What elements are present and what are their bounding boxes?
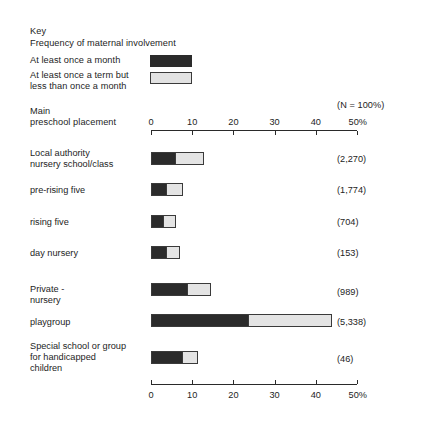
key-title: Key bbox=[30, 26, 46, 37]
bar-segment-at-least-once-a-month bbox=[152, 284, 187, 295]
key-subtitle: Frequency of maternal involvement bbox=[30, 38, 176, 49]
axis-tick-top bbox=[233, 131, 234, 135]
key-swatch-at-least-once-a-term bbox=[150, 72, 192, 84]
axis-tick-bottom bbox=[151, 380, 152, 384]
axis-tick-label-bottom: 40 bbox=[311, 390, 321, 400]
bar-segment-at-least-once-a-month bbox=[152, 247, 166, 258]
axis-tick-top bbox=[192, 131, 193, 135]
row-label: rising five bbox=[30, 217, 69, 228]
axis-tick-label-bottom: 10 bbox=[187, 390, 197, 400]
stacked-bar bbox=[151, 183, 183, 196]
row-n-value: (153) bbox=[337, 248, 358, 259]
axis-tick-label-bottom: 30 bbox=[269, 390, 279, 400]
stacked-bar bbox=[151, 215, 176, 228]
axis-tick-label-bottom: 0 bbox=[148, 390, 153, 400]
key-swatch-at-least-once-a-month bbox=[150, 55, 192, 67]
axis-tick-bottom bbox=[316, 380, 317, 384]
axis-tick-bottom bbox=[192, 380, 193, 384]
bar-segment-at-least-once-a-month bbox=[152, 315, 248, 326]
axis-tick-top bbox=[151, 131, 152, 135]
bar-segment-at-least-once-a-month bbox=[152, 153, 175, 164]
bar-segment-at-least-once-a-month bbox=[152, 216, 163, 227]
row-label: day nursery bbox=[30, 248, 78, 259]
row-label: Local authority nursery school/class bbox=[30, 148, 113, 170]
row-label: Special school or group for handicapped … bbox=[30, 341, 126, 375]
axis-tick-label-top: 50% bbox=[349, 117, 367, 127]
axis-tick-bottom bbox=[233, 380, 234, 384]
axis-tick-label-top: 0 bbox=[148, 117, 153, 127]
axis-tick-label-top: 30 bbox=[269, 117, 279, 127]
axis-top bbox=[151, 130, 357, 131]
bar-segment-at-least-once-a-term bbox=[248, 315, 331, 326]
row-n-value: (989) bbox=[337, 287, 358, 298]
row-label: pre-rising five bbox=[30, 185, 85, 196]
stacked-bar bbox=[151, 351, 198, 364]
key-legend-label-at-least-once-a-term: At least once a term but less than once … bbox=[30, 70, 129, 93]
row-label: Private - nursery bbox=[30, 284, 64, 306]
row-n-value: (2,270) bbox=[337, 154, 366, 165]
row-n-value: (704) bbox=[337, 217, 358, 228]
bar-segment-at-least-once-a-term bbox=[187, 284, 210, 295]
bar-segment-at-least-once-a-term bbox=[166, 184, 183, 195]
axis-tick-label-top: 40 bbox=[311, 117, 321, 127]
stacked-bar bbox=[151, 246, 180, 259]
row-n-value: (1,774) bbox=[337, 185, 366, 196]
stacked-bar bbox=[151, 283, 211, 296]
bar-segment-at-least-once-a-month bbox=[152, 184, 166, 195]
stacked-bar bbox=[151, 152, 204, 165]
bar-segment-at-least-once-a-term bbox=[163, 216, 175, 227]
stacked-bar bbox=[151, 314, 332, 327]
axis-tick-label-bottom: 20 bbox=[228, 390, 238, 400]
row-n-value: (46) bbox=[337, 354, 353, 365]
axis-tick-label-top: 10 bbox=[187, 117, 197, 127]
axis-bottom bbox=[151, 384, 357, 385]
axis-tick-top bbox=[275, 131, 276, 135]
bar-segment-at-least-once-a-month bbox=[152, 352, 182, 363]
row-heading-main-preschool-placement: Main preschool placement bbox=[30, 106, 116, 129]
bar-segment-at-least-once-a-term bbox=[182, 352, 197, 363]
axis-tick-bottom bbox=[357, 380, 358, 384]
bar-segment-at-least-once-a-term bbox=[166, 247, 178, 258]
axis-tick-label-bottom: 50% bbox=[349, 390, 367, 400]
axis-tick-top bbox=[357, 131, 358, 135]
row-n-value: (5,338) bbox=[337, 317, 366, 328]
axis-tick-bottom bbox=[275, 380, 276, 384]
key-legend-label-at-least-once-a-month: At least once a month bbox=[30, 55, 120, 66]
chart-figure: Key Frequency of maternal involvement At… bbox=[0, 0, 424, 424]
bar-segment-at-least-once-a-term bbox=[175, 153, 203, 164]
axis-tick-top bbox=[316, 131, 317, 135]
n-column-heading: (N = 100%) bbox=[337, 100, 384, 111]
axis-tick-label-top: 20 bbox=[228, 117, 238, 127]
row-label: playgroup bbox=[30, 317, 70, 328]
